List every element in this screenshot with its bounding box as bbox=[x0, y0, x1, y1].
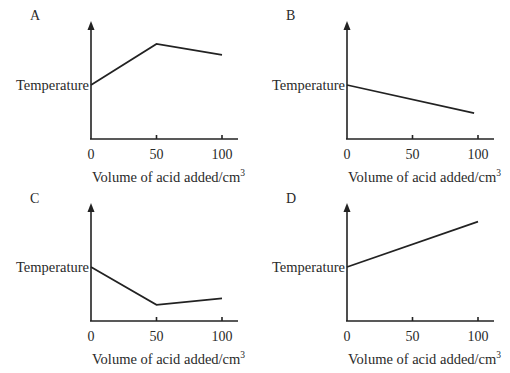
x-axis-label-superscript: 3 bbox=[496, 350, 501, 360]
x-tick-label: 0 bbox=[344, 147, 351, 162]
y-axis-arrow-icon bbox=[344, 203, 351, 212]
x-tick-label: 100 bbox=[212, 147, 233, 162]
x-axis-label-text: Volume of acid added/cm bbox=[348, 351, 497, 367]
x-axis-label: Volume of acid added/cm3 bbox=[92, 350, 245, 367]
y-axis-label: Temperature bbox=[272, 77, 345, 93]
panel-d: D050100TemperatureVolume of acid added/c… bbox=[272, 191, 501, 367]
x-tick-label: 50 bbox=[406, 329, 420, 344]
y-axis-arrow-icon bbox=[344, 21, 351, 30]
x-axis-label-text: Volume of acid added/cm bbox=[348, 169, 497, 185]
x-axis-label-text: Volume of acid added/cm bbox=[92, 169, 241, 185]
x-tick-label: 100 bbox=[212, 329, 233, 344]
x-axis-label-superscript: 3 bbox=[240, 168, 245, 178]
y-axis-label: Temperature bbox=[16, 77, 89, 93]
panel-b: B050100TemperatureVolume of acid added/c… bbox=[272, 8, 501, 185]
panel-a: A050100TemperatureVolume of acid added/c… bbox=[16, 8, 245, 185]
panel-label: B bbox=[286, 8, 295, 23]
x-axis-label: Volume of acid added/cm3 bbox=[348, 350, 501, 367]
panel-label: C bbox=[30, 191, 39, 206]
x-tick-label: 50 bbox=[150, 329, 164, 344]
panel-label: A bbox=[30, 8, 41, 23]
y-axis-arrow-icon bbox=[88, 203, 95, 212]
panel-c: C050100TemperatureVolume of acid added/c… bbox=[16, 191, 245, 367]
temperature-line bbox=[91, 267, 222, 305]
graph-comparison-figure: A050100TemperatureVolume of acid added/c… bbox=[0, 0, 510, 373]
x-tick-label: 0 bbox=[88, 147, 95, 162]
x-axis-label: Volume of acid added/cm3 bbox=[92, 168, 245, 185]
x-tick-label: 50 bbox=[406, 147, 420, 162]
temperature-line bbox=[347, 222, 478, 267]
x-tick-label: 100 bbox=[468, 147, 489, 162]
x-axis-label-superscript: 3 bbox=[496, 168, 501, 178]
x-tick-label: 0 bbox=[88, 329, 95, 344]
x-axis-label-text: Volume of acid added/cm bbox=[92, 351, 241, 367]
x-axis-label-superscript: 3 bbox=[240, 350, 245, 360]
x-tick-label: 50 bbox=[150, 147, 164, 162]
x-axis-label: Volume of acid added/cm3 bbox=[348, 168, 501, 185]
temperature-line bbox=[347, 85, 474, 113]
y-axis-label: Temperature bbox=[16, 259, 89, 275]
panel-label: D bbox=[286, 191, 296, 206]
x-tick-label: 100 bbox=[468, 329, 489, 344]
x-tick-label: 0 bbox=[344, 329, 351, 344]
temperature-line bbox=[91, 44, 222, 85]
y-axis-label: Temperature bbox=[272, 259, 345, 275]
y-axis-arrow-icon bbox=[88, 21, 95, 30]
